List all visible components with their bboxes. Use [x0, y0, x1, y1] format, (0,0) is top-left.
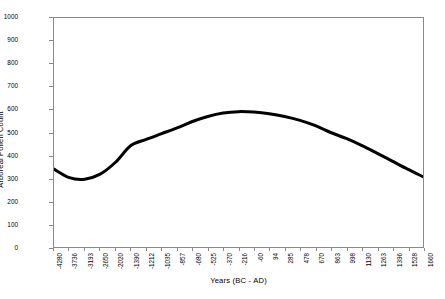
- x-axis-tick-label: 478: [303, 253, 310, 264]
- x-axis-tick-mark: [409, 248, 410, 251]
- x-axis-tick-mark: [84, 248, 85, 251]
- x-axis-tick-mark: [192, 248, 193, 251]
- x-axis-tick-label: 1396: [396, 253, 403, 267]
- pollen-count-line-chart: Arboreal Pollen Count 010020030040050060…: [0, 0, 445, 299]
- x-axis-tick-mark: [331, 248, 332, 251]
- x-axis-tick-label: -60: [257, 253, 264, 262]
- x-axis-tick-layer: -4280-3736-3193-2650-2020-1390-1212-1035…: [0, 0, 445, 299]
- x-axis-tick-label: -3193: [87, 253, 94, 269]
- x-axis-tick-label: -1035: [164, 253, 171, 269]
- x-axis-tick-mark: [146, 248, 147, 251]
- x-axis-tick-mark: [316, 248, 317, 251]
- x-axis-tick-mark: [161, 248, 162, 251]
- x-axis-tick-label: -2020: [117, 253, 124, 269]
- x-axis-tick-label: 94: [272, 253, 279, 260]
- x-axis-tick-mark: [68, 248, 69, 251]
- x-axis-tick-label: 285: [287, 253, 294, 264]
- x-axis-tick-mark: [223, 248, 224, 251]
- x-axis-tick-mark: [378, 248, 379, 251]
- x-axis-tick-mark: [254, 248, 255, 251]
- x-axis-tick-mark: [424, 248, 425, 251]
- x-axis-tick-mark: [239, 248, 240, 251]
- x-axis-tick-label: -216: [241, 253, 248, 266]
- x-axis-tick-mark: [300, 248, 301, 251]
- x-axis-tick-mark: [177, 248, 178, 251]
- x-axis-tick-label: 1130: [365, 253, 372, 267]
- x-axis-tick-mark: [53, 248, 54, 251]
- x-axis-tick-label: 1660: [427, 253, 434, 267]
- x-axis-tick-mark: [99, 248, 100, 251]
- x-axis-tick-label: 998: [349, 253, 356, 264]
- x-axis-tick-mark: [269, 248, 270, 251]
- x-axis-tick-mark: [130, 248, 131, 251]
- x-axis-tick-label: -370: [226, 253, 233, 266]
- x-axis-tick-label: 1528: [411, 253, 418, 267]
- x-axis-tick-mark: [347, 248, 348, 251]
- x-axis-tick-label: -680: [195, 253, 202, 266]
- x-axis-tick-label: -1212: [148, 253, 155, 269]
- x-axis-tick-label: -857: [179, 253, 186, 266]
- x-axis-tick-mark: [115, 248, 116, 251]
- x-axis-tick-label: 863: [334, 253, 341, 264]
- x-axis-tick-mark: [285, 248, 286, 251]
- x-axis-tick-label: -525: [210, 253, 217, 266]
- x-axis-tick-label: -2650: [102, 253, 109, 269]
- x-axis-tick-mark: [393, 248, 394, 251]
- x-axis-tick-label: -3736: [71, 253, 78, 269]
- x-axis-title: Years (BC - AD): [53, 276, 424, 285]
- x-axis-tick-mark: [362, 248, 363, 251]
- x-axis-tick-label: -4280: [56, 253, 63, 269]
- x-axis-tick-label: 1263: [380, 253, 387, 267]
- x-axis-tick-label: 670: [318, 253, 325, 264]
- x-axis-tick-mark: [208, 248, 209, 251]
- x-axis-tick-label: -1390: [133, 253, 140, 269]
